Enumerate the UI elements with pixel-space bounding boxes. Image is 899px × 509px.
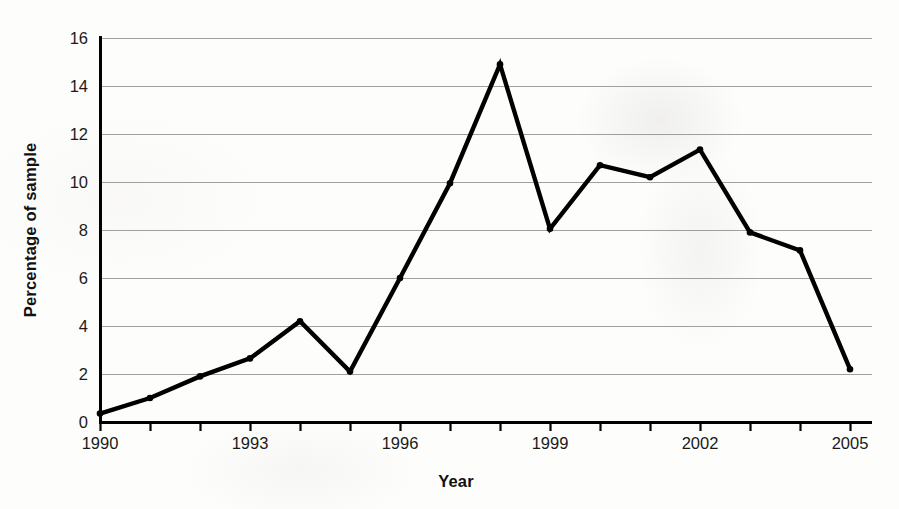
y-axis-tick-label: 0 (79, 413, 88, 431)
data-point-marker (297, 318, 304, 325)
y-axis-tick-label: 4 (79, 317, 88, 335)
chart-page: 0246810121416 199019931996199920022005 P… (0, 0, 899, 509)
data-point-marker (597, 162, 604, 169)
gridlines (100, 39, 872, 375)
x-axis-tick-label: 2005 (832, 434, 869, 452)
data-point-markers (97, 61, 854, 417)
x-axis-title: Year (438, 472, 474, 490)
data-series-line (100, 64, 850, 413)
line-chart: 0246810121416 199019931996199920022005 P… (0, 0, 899, 509)
data-point-marker (247, 355, 254, 362)
data-point-marker (347, 368, 354, 375)
x-axis-tick-labels: 199019931996199920022005 (82, 434, 869, 452)
y-axis-tick-label: 2 (79, 365, 88, 383)
y-axis-title: Percentage of sample (21, 143, 39, 318)
x-axis-tick-label: 2002 (682, 434, 719, 452)
x-axis-tick-label: 1999 (532, 434, 569, 452)
x-axis-tick-label: 1990 (82, 434, 119, 452)
y-axis-tick-label: 10 (70, 173, 88, 191)
y-axis-tick-label: 12 (70, 125, 88, 143)
data-point-marker (397, 275, 404, 282)
x-axis-tick-label: 1993 (232, 434, 269, 452)
data-point-marker (647, 174, 654, 181)
y-axis-tick-label: 6 (79, 269, 88, 287)
x-axis-tick-label: 1996 (382, 434, 419, 452)
data-point-marker (747, 229, 754, 236)
y-axis-tick-label: 14 (70, 77, 88, 95)
data-point-marker (147, 395, 154, 402)
y-axis-tick-label: 8 (79, 221, 88, 239)
data-point-marker (797, 247, 804, 254)
y-axis-tick-label: 16 (70, 29, 88, 47)
data-point-marker (547, 226, 554, 233)
data-point-marker (97, 410, 104, 417)
data-point-marker (197, 373, 204, 380)
data-point-marker (697, 146, 704, 153)
y-axis-tick-labels: 0246810121416 (70, 29, 88, 431)
data-point-marker (447, 180, 454, 187)
data-point-marker (497, 61, 504, 68)
data-point-marker (847, 366, 854, 373)
